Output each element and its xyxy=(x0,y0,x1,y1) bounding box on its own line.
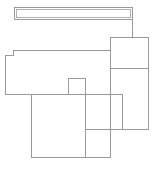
floor-plan-canvas xyxy=(0,0,156,170)
center-room xyxy=(86,95,123,130)
top-corridor-bar-inner xyxy=(17,10,131,18)
small-alcove-notch xyxy=(69,79,86,95)
floor-plan-drawing xyxy=(0,0,156,170)
bottom-large-room xyxy=(32,95,111,158)
right-upper-room xyxy=(111,38,149,69)
left-large-room xyxy=(6,51,111,95)
right-lower-room xyxy=(111,69,149,130)
